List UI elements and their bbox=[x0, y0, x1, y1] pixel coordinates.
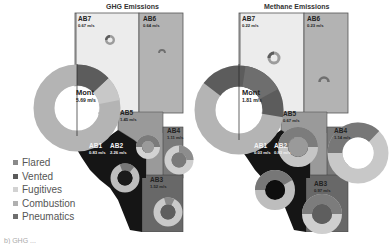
legend-swatch-flared bbox=[13, 160, 18, 165]
methane-ab6-donut bbox=[317, 75, 331, 89]
ghg-ab5-donut bbox=[135, 134, 161, 160]
methane-label-ab2: AB2 0.83 m/s bbox=[274, 143, 291, 155]
ghg-label-ab1: AB1 0.83 m/s bbox=[89, 143, 106, 155]
methane-label-ab6: AB6 0.23 m/s bbox=[307, 16, 324, 28]
methane-emissions-panel: Methane Emissions bbox=[175, 0, 390, 232]
ghg-label-ab2: AB2 2.26 m/s bbox=[110, 143, 127, 155]
ghg-label-ab6: AB6 0.64 m/s bbox=[143, 16, 160, 28]
ghg-label-ab5: AB5 1.45 m/s bbox=[120, 110, 137, 122]
ghg-ab7-donut bbox=[104, 34, 116, 46]
methane-mont-donut bbox=[193, 64, 285, 156]
legend-swatch-vented bbox=[13, 174, 18, 179]
methane-ab7-donut bbox=[266, 50, 282, 66]
methane-label-ab7: AB7 0.22 m/s bbox=[242, 16, 259, 28]
legend-swatch-combustion bbox=[13, 201, 18, 206]
legend: Flared Vented Fugitives Combustion Pneum… bbox=[13, 156, 75, 224]
legend-item-fugitives: Fugitives bbox=[13, 183, 75, 197]
ghg-mont-donut bbox=[33, 64, 121, 152]
methane-label-ab1: AB1 0.03 m/s bbox=[254, 143, 271, 155]
legend-swatch-pneumatics bbox=[13, 214, 18, 219]
methane-label-mont: Mont 1.81 m/s bbox=[242, 89, 262, 103]
legend-item-combustion: Combustion bbox=[13, 197, 75, 211]
methane-label-ab3: AB3 0.97 m/s bbox=[314, 181, 331, 193]
ghg-label-mont: Mont 5.69 m/s bbox=[76, 89, 96, 103]
legend-swatch-fugitives bbox=[13, 187, 18, 192]
region-ab6 bbox=[304, 13, 348, 113]
legend-item-flared: Flared bbox=[13, 156, 75, 170]
ghg-ab2-donut bbox=[110, 163, 140, 193]
methane-ab3-donut bbox=[300, 192, 344, 236]
legend-item-vented: Vented bbox=[13, 170, 75, 184]
ghg-ab6-donut bbox=[157, 48, 167, 58]
methane-label-ab5: AB5 0.67 m/s bbox=[283, 111, 300, 123]
ghg-label-ab3: AB3 1.52 m/s bbox=[150, 177, 167, 189]
legend-item-pneumatics: Pneumatics bbox=[13, 210, 75, 224]
methane-label-ab4: AB4 1.14 m/s bbox=[334, 128, 351, 140]
ghg-label-ab7: AB7 0.67 m/s bbox=[78, 16, 95, 28]
figure-caption: b) GHG ... bbox=[4, 237, 36, 244]
methane-ab2-donut bbox=[253, 168, 297, 212]
